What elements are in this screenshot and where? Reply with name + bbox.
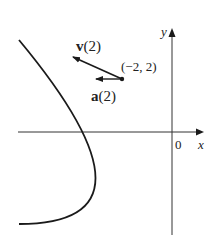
x-axis-arrow-icon [196,129,204,136]
origin-label: 0 [175,137,182,152]
acceleration-label: a(2) [91,88,116,105]
y-axis-arrow-icon [169,28,176,37]
x-axis [18,129,204,136]
point-label: (−2, 2) [121,59,157,74]
velocity-label: v(2) [76,38,101,55]
velocity-vector [73,57,122,79]
diagram-canvas: v(2) a(2) (−2, 2) y x 0 [0,0,213,235]
y-axis-label: y [159,24,167,39]
x-axis-label: x [197,137,204,152]
